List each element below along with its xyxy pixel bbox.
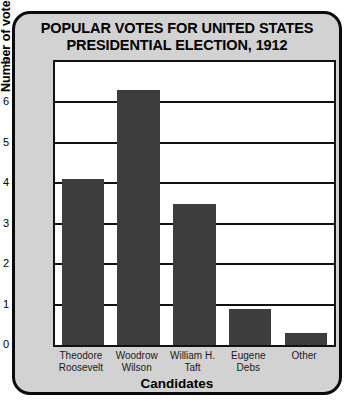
bar[interactable] — [117, 90, 159, 345]
x-axis-tick-label: EugeneDebs — [220, 350, 276, 374]
y-axis-title: Number of votes (millions) — [0, 0, 13, 92]
y-axis-tick-label: 6 — [0, 95, 9, 107]
y-axis-tick-label: 1 — [0, 298, 9, 310]
x-axis-tick-label-line: Woodrow — [109, 350, 165, 362]
x-axis-tick-label-line: William H. — [165, 350, 221, 362]
bar-slot — [222, 62, 278, 345]
chart-title-line-1: POPULAR VOTES FOR UNITED STATES — [15, 20, 339, 37]
x-axis-tick-label-line: Eugene — [220, 350, 276, 362]
bar[interactable] — [285, 333, 327, 345]
chart-figure: POPULAR VOTES FOR UNITED STATES PRESIDEN… — [12, 11, 342, 395]
y-axis-tick-label: 3 — [0, 217, 9, 229]
y-axis-tick-label: 7 — [0, 55, 9, 67]
bar-slot — [55, 62, 111, 345]
x-axis-tick-label: TheodoreRoosevelt — [53, 350, 109, 374]
y-axis-tick-label: 5 — [0, 136, 9, 148]
x-axis-tick-label-line: Taft — [165, 362, 221, 374]
bar[interactable] — [173, 204, 215, 346]
bar-series — [55, 62, 334, 345]
bar-slot — [111, 62, 167, 345]
x-axis-tick-label: William H.Taft — [165, 350, 221, 374]
bar-slot — [278, 62, 334, 345]
bar[interactable] — [62, 179, 104, 345]
x-axis-tick-label-line: Roosevelt — [53, 362, 109, 374]
x-axis-tick-label-line: Debs — [220, 362, 276, 374]
y-axis-tick-label: 0 — [0, 338, 9, 350]
y-axis-tick-label: 2 — [0, 257, 9, 269]
x-axis-tick-label-line: Wilson — [109, 362, 165, 374]
x-axis-tick-label: WoodrowWilson — [109, 350, 165, 374]
bar[interactable] — [229, 309, 271, 345]
x-axis-title: Candidates — [15, 376, 339, 391]
bar-slot — [167, 62, 223, 345]
plot-area: 01234567 — [53, 60, 336, 347]
chart-title-line-2: PRESIDENTIAL ELECTION, 1912 — [15, 37, 339, 54]
x-axis-tick-label-line: Other — [276, 350, 332, 362]
x-axis-tick-label: Other — [276, 350, 332, 362]
chart-title: POPULAR VOTES FOR UNITED STATES PRESIDEN… — [15, 20, 339, 54]
y-axis-tick-label: 4 — [0, 176, 9, 188]
x-axis-tick-label-line: Theodore — [53, 350, 109, 362]
